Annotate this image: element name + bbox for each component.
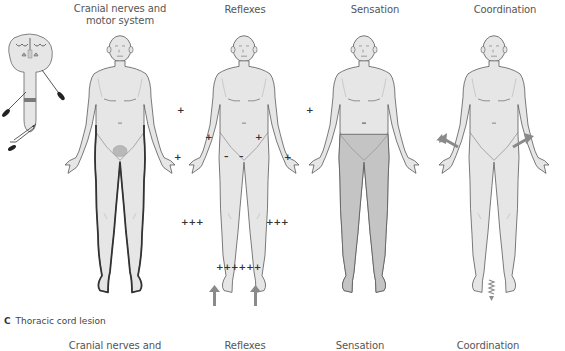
reflex-plus-marker: +	[174, 152, 182, 162]
ataxia-arrow-icon	[436, 133, 458, 147]
reflex-plus-marker: +	[205, 132, 213, 142]
panel-c-column-title-coordination: Coordination	[438, 340, 538, 351]
reflex-plus-marker: +	[255, 132, 263, 142]
knee-reflex-marker: +++	[181, 217, 204, 227]
ankle-reflex-marker: ++++++	[216, 262, 261, 272]
diagram-canvas: + + + + + + – – +++ +++ ++++++	[0, 0, 565, 351]
unsteady-gait-icon	[489, 280, 494, 301]
panel-caption-text: Thoracic cord lesion	[16, 316, 106, 326]
probe-icon	[42, 70, 66, 101]
reflex-plus-marker: +	[284, 152, 292, 162]
figure-sensation	[309, 36, 419, 293]
figure-motor-system	[65, 36, 175, 293]
panel-c-column-title-motor: Cranial nerves and	[60, 340, 170, 351]
reflex-plus-marker: +	[177, 105, 185, 115]
reflex-plus-marker: +	[306, 105, 314, 115]
abdominal-reflex-minus: –	[224, 151, 229, 161]
figure-reflexes	[189, 36, 299, 293]
brain-spinal-cord-diagram	[1, 34, 66, 152]
abdominal-reflex-minus: –	[239, 151, 244, 161]
knee-reflex-marker: +++	[266, 217, 289, 227]
panel-c-column-title-reflexes: Reflexes	[205, 340, 285, 351]
figure-coordination	[439, 36, 549, 293]
bladder-icon	[113, 145, 127, 156]
sensory-loss-region	[339, 134, 389, 292]
panel-c-caption: CThoracic cord lesion	[4, 316, 106, 326]
probe-icon	[1, 92, 26, 118]
babinski-arrow-icon	[209, 285, 220, 306]
panel-c-column-title-sensation: Sensation	[320, 340, 400, 351]
cord-lesion-band	[24, 98, 36, 102]
panel-letter: C	[4, 316, 11, 326]
